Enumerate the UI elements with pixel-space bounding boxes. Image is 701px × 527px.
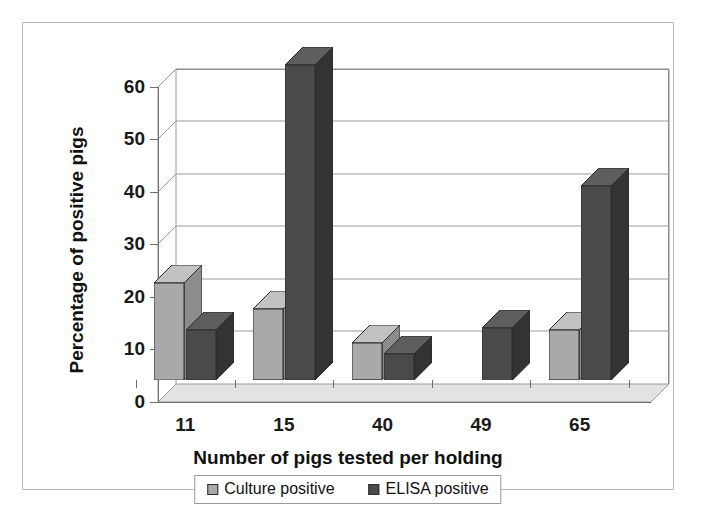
x-tick-label-65: 65 xyxy=(545,415,615,434)
y-tick-label-20: 20 xyxy=(105,287,145,306)
y-tick-label-0: 0 xyxy=(105,392,145,411)
bar-side-face xyxy=(611,168,629,380)
bar-front-face xyxy=(384,354,414,380)
y-tick-50 xyxy=(150,139,158,140)
bar-front-face xyxy=(482,328,512,381)
bar-front-face xyxy=(549,330,579,380)
legend-item-culture-positive[interactable]: Culture positive xyxy=(207,481,334,497)
y-tick-60 xyxy=(150,87,158,88)
x-tick-label-15: 15 xyxy=(249,415,319,434)
legend-swatch-elisa-positive xyxy=(369,484,380,495)
x-tick-1 xyxy=(235,380,236,388)
chart-legend: Culture positive ELISA positive xyxy=(194,475,501,504)
bar-elisa-positive-65[interactable] xyxy=(581,168,629,380)
bar-front-face xyxy=(285,65,315,380)
bar-front-face xyxy=(352,343,382,380)
y-tick-30 xyxy=(150,244,158,245)
figure-page: 60 50 40 30 20 10 0 Percentage of positi… xyxy=(0,0,701,527)
x-tick-5 xyxy=(629,380,630,388)
y-tick-label-50: 50 xyxy=(105,129,145,148)
x-tick-label-49: 49 xyxy=(446,415,516,434)
y-tick-40 xyxy=(150,192,158,193)
x-tick-2 xyxy=(333,380,334,388)
y-tick-label-40: 40 xyxy=(105,182,145,201)
x-tick-label-40: 40 xyxy=(348,415,418,434)
bar-front-face xyxy=(154,283,184,380)
y-tick-label-60: 60 xyxy=(105,77,145,96)
y-tick-label-30: 30 xyxy=(105,234,145,253)
x-tick-3 xyxy=(432,380,433,388)
bar-elisa-positive-40[interactable] xyxy=(384,336,432,380)
x-tick-4 xyxy=(530,380,531,388)
bar-front-face xyxy=(253,309,283,380)
y-axis-title: Percentage of positive pigs xyxy=(66,100,88,400)
figure-frame: 60 50 40 30 20 10 0 Percentage of positi… xyxy=(22,22,674,490)
bar-side-face xyxy=(315,47,333,380)
legend-label-culture-positive: Culture positive xyxy=(224,481,334,497)
x-axis-title: Number of pigs tested per holding xyxy=(23,447,673,469)
bar-elisa-positive-15[interactable] xyxy=(285,47,333,380)
x-axis-line xyxy=(158,402,651,403)
legend-label-elisa-positive: ELISA positive xyxy=(386,481,489,497)
bar-front-face xyxy=(581,186,611,380)
y-tick-label-10: 10 xyxy=(105,339,145,358)
x-tick-0 xyxy=(136,380,137,388)
x-tick-label-11: 11 xyxy=(150,415,220,434)
legend-item-elisa-positive[interactable]: ELISA positive xyxy=(369,481,489,497)
bar-front-face xyxy=(186,330,216,380)
bar-elisa-positive-49[interactable] xyxy=(482,310,530,381)
legend-swatch-culture-positive xyxy=(207,484,218,495)
y-tick-0 xyxy=(150,402,158,403)
bar-elisa-positive-11[interactable] xyxy=(186,312,234,380)
